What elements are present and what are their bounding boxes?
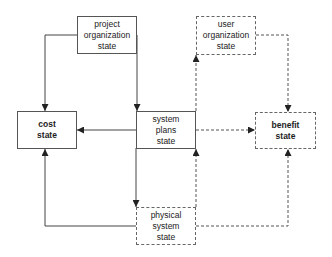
- node-label-line: system: [153, 221, 180, 232]
- node-label-line: plans: [156, 125, 176, 136]
- node-label-line: state: [37, 130, 57, 141]
- node-label-line: state: [276, 131, 296, 142]
- physical-system-state-node: physical system state: [136, 207, 196, 245]
- edge-user-org-to-benefit: [256, 35, 288, 112]
- node-label-line: cost: [38, 119, 55, 130]
- node-label-line: state: [157, 232, 175, 243]
- user-organization-state-node: user organization state: [196, 16, 256, 55]
- edge-project-to-cost: [45, 35, 77, 111]
- system-plans-state-node: system plans state: [136, 111, 196, 149]
- node-label-line: user: [218, 19, 235, 30]
- node-label-line: project: [94, 19, 120, 30]
- node-label-line: system: [153, 114, 180, 125]
- node-label-line: state: [98, 41, 116, 52]
- project-organization-state-node: project organization state: [77, 16, 137, 54]
- edge-physical-to-cost: [45, 149, 136, 226]
- node-label-line: state: [217, 41, 235, 52]
- node-label-line: organization: [84, 30, 130, 41]
- node-label-line: state: [157, 136, 175, 147]
- edge-physical-to-benefit: [196, 149, 288, 226]
- node-label-line: organization: [203, 30, 249, 41]
- node-label-line: physical: [151, 210, 182, 221]
- benefit-state-node: benefit state: [255, 112, 316, 149]
- node-label-line: benefit: [272, 120, 300, 131]
- cost-state-node: cost state: [17, 111, 77, 149]
